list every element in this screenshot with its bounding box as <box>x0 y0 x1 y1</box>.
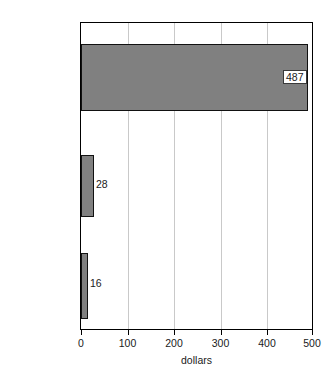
tick-mark-100 <box>128 330 129 335</box>
tick-label-300: 300 <box>201 337 241 349</box>
bar-sub-saharan-africa[interactable] <box>81 253 88 319</box>
tick-label-500: 500 <box>292 337 332 349</box>
tick-mark-500 <box>312 330 313 335</box>
tick-mark-0 <box>81 330 82 335</box>
tick-mark-200 <box>174 330 175 335</box>
tick-label-100: 100 <box>108 337 148 349</box>
bar-developed-countries[interactable] <box>81 44 308 111</box>
x-axis-title: dollars <box>80 354 313 366</box>
plot-area <box>80 22 313 330</box>
value-label-sub-saharan-africa: 16 <box>90 277 102 289</box>
bar-developing-countries[interactable] <box>81 155 94 217</box>
value-label-developed-countries: 487 <box>283 70 307 84</box>
tick-label-400: 400 <box>247 337 287 349</box>
tick-label-200: 200 <box>154 337 194 349</box>
value-label-developing-countries: 28 <box>96 178 108 190</box>
tick-mark-300 <box>221 330 222 335</box>
bar-chart: Developedcountries Developingcountries S… <box>0 0 335 375</box>
tick-mark-400 <box>267 330 268 335</box>
tick-label-0: 0 <box>61 337 101 349</box>
